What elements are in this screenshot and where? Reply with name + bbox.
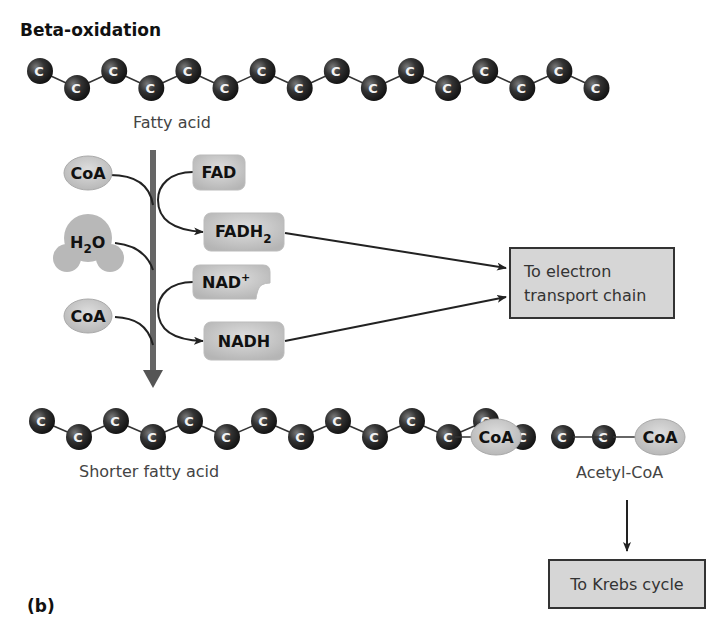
svg-text:C: C <box>405 64 415 79</box>
shorter-fatty-acid-chain: CCCCCCCCCCCCCC <box>29 408 536 450</box>
fatty-acid-carbon-atom: C <box>509 75 535 101</box>
coa-1-label: CoA <box>70 164 106 183</box>
nadh-to-etc-arrow <box>285 297 506 341</box>
svg-text:C: C <box>331 64 341 79</box>
svg-text:C: C <box>369 430 379 445</box>
shorter-chain-carbon-atom: C <box>362 424 388 450</box>
shorter-fatty-acid-label: Shorter fatty acid <box>79 462 219 481</box>
svg-text:C: C <box>406 414 416 429</box>
svg-text:C: C <box>183 64 193 79</box>
shorter-chain-coa-label: CoA <box>478 428 514 447</box>
svg-text:C: C <box>332 414 342 429</box>
fatty-acid-carbon-atom: C <box>250 58 276 84</box>
shorter-chain-carbon-atom: C <box>66 424 92 450</box>
svg-text:C: C <box>517 81 527 96</box>
nadh-label: NADH <box>218 332 270 351</box>
svg-text:C: C <box>442 81 452 96</box>
svg-text:C: C <box>479 64 489 79</box>
panel-label: (b) <box>27 596 55 616</box>
fadh2-to-etc-arrow <box>285 233 506 268</box>
svg-text:C: C <box>591 81 601 96</box>
shorter-chain-coa: CoA <box>471 419 521 455</box>
shorter-chain-carbon-atom: C <box>103 408 129 434</box>
krebs-cycle-label: To Krebs cycle <box>569 575 683 594</box>
fatty-acid-carbon-atom: C <box>435 75 461 101</box>
beta-oxidation-diagram: Beta-oxidation CCCCCCCCCCCCCCCC Fatty ac… <box>0 0 720 634</box>
svg-text:C: C <box>108 64 118 79</box>
svg-text:C: C <box>221 430 231 445</box>
acetyl-carbon-atom: C <box>551 425 575 449</box>
water-molecule: H2O <box>53 214 124 272</box>
fatty-acid-carbon-atom: C <box>27 58 53 84</box>
krebs-cycle-box: To Krebs cycle <box>549 560 705 608</box>
svg-text:C: C <box>146 81 156 96</box>
fatty-acid-carbon-atom: C <box>101 58 127 84</box>
acetyl-coa-label: Acetyl-CoA <box>576 463 663 482</box>
acetyl-coa-coa-label: CoA <box>642 428 678 447</box>
fatty-acid-carbon-atom: C <box>472 58 498 84</box>
svg-text:C: C <box>220 81 230 96</box>
fatty-acid-carbon-atom: C <box>546 58 572 84</box>
svg-text:C: C <box>110 414 120 429</box>
nad-plus-molecule: NAD+ <box>193 265 270 299</box>
coa-2-curve <box>115 317 153 345</box>
fad-label: FAD <box>202 163 237 182</box>
nadh-molecule: NADH <box>204 322 284 360</box>
etc-line-2: transport chain <box>524 286 646 305</box>
svg-text:C: C <box>257 64 267 79</box>
coa-2-label: CoA <box>70 307 106 326</box>
fatty-acid-chain: CCCCCCCCCCCCCCCC <box>27 58 610 101</box>
svg-text:C: C <box>73 430 83 445</box>
fatty-acid-carbon-atom: C <box>213 75 239 101</box>
shorter-chain-carbon-atom: C <box>29 408 55 434</box>
svg-text:C: C <box>36 414 46 429</box>
shorter-chain-carbon-atom: C <box>288 424 314 450</box>
shorter-chain-carbon-atom: C <box>399 408 425 434</box>
fatty-acid-carbon-atom: C <box>64 75 90 101</box>
fatty-acid-carbon-atom: C <box>287 75 313 101</box>
svg-text:C: C <box>368 81 378 96</box>
svg-text:C: C <box>184 414 194 429</box>
shorter-chain-carbon-atom: C <box>251 408 277 434</box>
svg-text:C: C <box>71 81 81 96</box>
fatty-acid-carbon-atom: C <box>138 75 164 101</box>
svg-text:C: C <box>147 430 157 445</box>
svg-text:C: C <box>258 414 268 429</box>
svg-text:C: C <box>34 64 44 79</box>
shorter-chain-carbon-atom: C <box>140 424 166 450</box>
fatty-acid-label: Fatty acid <box>133 113 211 132</box>
coa-molecule-1: CoA <box>64 156 112 190</box>
fatty-acid-carbon-atom: C <box>324 58 350 84</box>
etc-line-1: To electron <box>523 262 611 281</box>
fatty-acid-carbon-atom: C <box>175 58 201 84</box>
electron-transport-chain-box: To electron transport chain <box>510 248 674 318</box>
shorter-chain-carbon-atom: C <box>214 424 240 450</box>
fatty-acid-carbon-atom: C <box>398 58 424 84</box>
fatty-acid-carbon-atom: C <box>361 75 387 101</box>
shorter-chain-carbon-atom: C <box>325 408 351 434</box>
coa-1-curve <box>110 175 153 205</box>
svg-text:C: C <box>294 81 304 96</box>
svg-text:C: C <box>554 64 564 79</box>
acetyl-coa-coa: CoA <box>635 419 685 455</box>
svg-text:C: C <box>295 430 305 445</box>
fad-molecule: FAD <box>193 155 245 190</box>
svg-text:C: C <box>557 430 567 445</box>
diagram-title: Beta-oxidation <box>20 20 161 40</box>
shorter-chain-carbon-atom: C <box>177 408 203 434</box>
fadh2-molecule: FADH2 <box>204 213 284 251</box>
fatty-acid-carbon-atom: C <box>584 75 610 101</box>
coa-molecule-2: CoA <box>64 299 112 333</box>
svg-text:C: C <box>443 430 453 445</box>
